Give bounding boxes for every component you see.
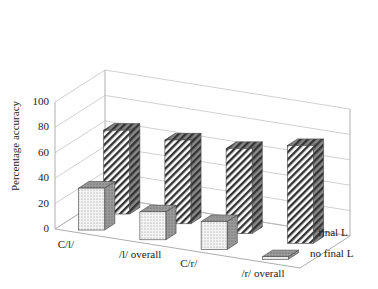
bar [140, 205, 176, 240]
legend-entry: no final L [310, 247, 353, 259]
bar [262, 250, 298, 259]
y-axis-label: Percentage accuracy [9, 101, 21, 191]
y-tick-label: 100 [27, 95, 49, 107]
bar [201, 215, 237, 250]
y-tick-label: 0 [27, 222, 49, 234]
y-tick-label: 20 [27, 197, 49, 209]
y-tick-label: 40 [27, 171, 49, 183]
x-tick-label: /r/ overall [241, 267, 284, 279]
legend-entry: final L [318, 226, 348, 238]
y-tick-label: 60 [27, 146, 49, 158]
y-tick-label: 80 [27, 120, 49, 132]
x-tick-label: C/r/ [180, 257, 197, 269]
x-tick-label: C/l/ [58, 238, 75, 250]
x-tick-label: /l/ overall [119, 248, 161, 260]
bar [79, 182, 115, 231]
